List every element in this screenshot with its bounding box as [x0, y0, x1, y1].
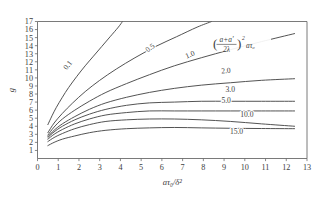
x-tick-label: 6: [160, 163, 164, 172]
annotation-left-paren: (: [213, 36, 217, 51]
curve-0-5: [48, 22, 212, 133]
curve-label-group: 0.10.1: [61, 58, 74, 71]
curve-label-1-0: 1.0: [184, 49, 196, 61]
y-tick-label: 9: [29, 82, 33, 91]
curve-label-group: 15.015.0: [230, 127, 243, 136]
annotation-exponent: 2: [242, 35, 245, 41]
x-tick-label: 1: [56, 163, 60, 172]
x-tick-label: 7: [181, 163, 185, 172]
y-tick-label: 10: [25, 74, 33, 83]
curve-label-0-1: 0.1: [61, 58, 74, 71]
x-tick-label: 2: [77, 163, 81, 172]
curve-15-0: [48, 127, 295, 145]
y-tick-label: 14: [25, 42, 33, 51]
x-tick-label: 0: [35, 163, 39, 172]
y-tick-label: 12: [25, 58, 33, 67]
curve-0-1: [48, 22, 123, 125]
curve-label-10-0: 10.0: [240, 110, 253, 119]
curve-label-5-0: 5.0: [221, 96, 231, 105]
y-axis-tick-labels: 1234567891011121314151617: [25, 17, 33, 155]
x-tick-label: 13: [303, 163, 311, 172]
y-tick-label: 17: [25, 17, 33, 26]
annotation-numerator: a+a': [220, 35, 234, 44]
formula-annotation: (a+a'2λ)2aτ₀: [211, 33, 271, 54]
curve-label-group: 10.010.0: [240, 110, 253, 119]
x-tick-label: 8: [201, 163, 205, 172]
y-axis-label: g: [6, 87, 16, 92]
y-tick-label: 1: [29, 146, 33, 155]
curve-10-0: [48, 119, 295, 142]
x-tick-label: 9: [222, 163, 226, 172]
y-tick-label: 4: [29, 122, 33, 131]
curve-label-15-0: 15.0: [230, 127, 243, 136]
x-tick-label: 4: [118, 163, 122, 172]
annotation-denominator: 2λ: [223, 45, 231, 54]
y-tick-label: 16: [25, 25, 33, 34]
y-tick-label: 5: [29, 114, 33, 123]
x-tick-label: 11: [262, 163, 270, 172]
curve-5-0: [48, 111, 295, 139]
y-tick-label: 3: [29, 130, 33, 139]
x-axis-label: aτ₀/δ²: [163, 177, 183, 187]
curve-label-group: 1.01.0: [184, 49, 196, 61]
chart-figure: 012345678910111213 123456789101112131415…: [0, 0, 322, 200]
y-tick-label: 7: [29, 98, 33, 107]
curve-label-2-0: 2.0: [221, 66, 231, 76]
line-chart: 012345678910111213 123456789101112131415…: [0, 0, 322, 200]
y-tick-label: 6: [29, 106, 33, 115]
y-tick-label: 8: [29, 90, 33, 99]
annotation-right-paren: ): [237, 36, 241, 51]
x-tick-label: 5: [139, 163, 143, 172]
y-tick-label: 13: [25, 50, 33, 59]
annotation-tail: aτ₀: [246, 41, 255, 50]
x-axis-tick-labels: 012345678910111213: [35, 163, 311, 172]
x-tick-label: 10: [241, 163, 249, 172]
curve-label-group: 3.03.0: [226, 85, 236, 94]
y-tick-label: 15: [25, 34, 33, 43]
curve-label-3-0: 3.0: [226, 85, 236, 94]
y-tick-label: 2: [29, 138, 33, 147]
x-tick-label: 3: [98, 163, 102, 172]
y-tick-label: 11: [25, 66, 33, 75]
curve-label-group: 5.05.0: [221, 96, 231, 105]
x-tick-label: 12: [282, 163, 290, 172]
curve-label-group: 2.02.0: [221, 66, 231, 76]
